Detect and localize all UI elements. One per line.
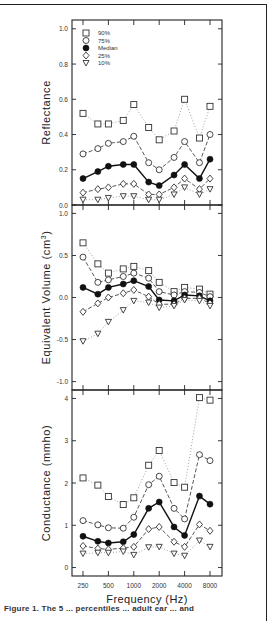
- svg-text:Equivalent Volume (cm3): Equivalent Volume (cm3): [40, 231, 52, 365]
- svg-text:1000: 1000: [127, 582, 142, 589]
- svg-text:75%: 75%: [98, 38, 111, 44]
- figure-caption: Figure 1. The 5 ... percentiles ... adul…: [4, 604, 194, 613]
- svg-text:250: 250: [78, 582, 89, 589]
- svg-text:Conductance (mmho): Conductance (mmho): [40, 425, 52, 542]
- svg-text:Reflectance: Reflectance: [40, 80, 52, 145]
- svg-text:500: 500: [103, 582, 114, 589]
- svg-text:0.6: 0.6: [59, 96, 68, 103]
- svg-text:0.5: 0.5: [59, 252, 68, 259]
- svg-text:25%: 25%: [98, 53, 111, 59]
- svg-text:1.0: 1.0: [59, 210, 68, 217]
- panel-1: 0.00.20.40.60.81.0Reflectance: [40, 20, 222, 209]
- svg-text:-1.0: -1.0: [57, 378, 69, 385]
- svg-text:3: 3: [64, 437, 68, 444]
- svg-text:4000: 4000: [177, 582, 192, 589]
- panel-3: 01234Conductance (mmho)25050010002000400…: [40, 390, 222, 605]
- panel-2: -1.0-0.50.00.51.0Equivalent Volume (cm3): [40, 205, 222, 390]
- legend: 90%75%Median25%10%: [83, 30, 118, 66]
- svg-text:0.8: 0.8: [59, 61, 68, 68]
- svg-text:0.0: 0.0: [59, 294, 68, 301]
- svg-text:0.0: 0.0: [59, 202, 68, 209]
- svg-text:1: 1: [64, 522, 68, 529]
- svg-text:-0.5: -0.5: [57, 336, 69, 343]
- svg-text:8000: 8000: [203, 582, 218, 589]
- svg-text:0.2: 0.2: [59, 166, 68, 173]
- svg-text:10%: 10%: [98, 60, 111, 66]
- svg-text:4: 4: [64, 395, 68, 402]
- svg-text:0: 0: [64, 564, 68, 571]
- svg-text:1.0: 1.0: [59, 25, 68, 32]
- svg-text:0.4: 0.4: [59, 131, 68, 138]
- svg-text:90%: 90%: [98, 30, 111, 36]
- svg-text:Median: Median: [98, 45, 118, 51]
- svg-text:2: 2: [64, 480, 68, 487]
- svg-text:2000: 2000: [152, 582, 167, 589]
